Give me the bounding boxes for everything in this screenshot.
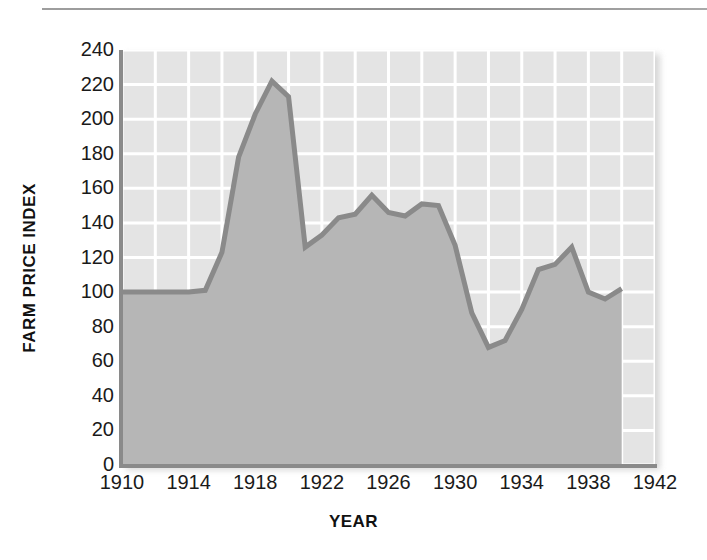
series-area — [122, 81, 622, 465]
y-tick-label: 200 — [56, 108, 114, 128]
y-tick-label: 240 — [56, 39, 114, 59]
x-tick-label: 1914 — [166, 472, 211, 492]
x-tick-label: 1942 — [633, 472, 678, 492]
x-tick-label: 1930 — [433, 472, 478, 492]
y-tick-label: 100 — [56, 281, 114, 301]
x-tick-label: 1938 — [566, 472, 611, 492]
x-axis-title: YEAR — [0, 512, 707, 532]
y-axis-title: FARM PRICE INDEX — [20, 158, 40, 378]
x-axis-line — [119, 464, 657, 468]
y-tick-label: 80 — [56, 316, 114, 336]
y-tick-label: 40 — [56, 385, 114, 405]
y-tick-label: 140 — [56, 212, 114, 232]
x-tick-label: 1918 — [233, 472, 278, 492]
y-tick-label: 120 — [56, 247, 114, 267]
x-axis-tick-labels: 191019141918192219261930193419381942 — [0, 472, 707, 502]
y-tick-label: 220 — [56, 74, 114, 94]
x-tick-label: 1922 — [300, 472, 345, 492]
y-tick-label: 160 — [56, 177, 114, 197]
x-tick-label: 1934 — [500, 472, 545, 492]
plot-area — [122, 50, 655, 465]
chart-page: 020406080100120140160180200220240 191019… — [0, 0, 707, 560]
x-tick-label: 1926 — [366, 472, 411, 492]
y-tick-label: 180 — [56, 143, 114, 163]
y-axis-line — [119, 50, 123, 468]
x-tick-label: 1910 — [100, 472, 145, 492]
chart-canvas — [122, 50, 655, 465]
y-tick-label: 20 — [56, 419, 114, 439]
farm-price-index-figure: 020406080100120140160180200220240 191019… — [0, 0, 707, 560]
y-tick-label: 60 — [56, 350, 114, 370]
